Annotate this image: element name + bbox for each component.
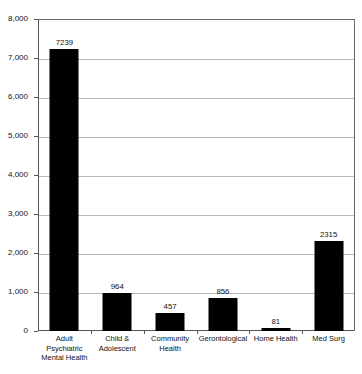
bar-group: 81 [249, 19, 302, 331]
x-tick-label: Home Health [249, 334, 302, 344]
bar[interactable] [314, 241, 343, 331]
bar[interactable] [50, 49, 79, 331]
bar[interactable] [156, 313, 185, 331]
x-tick-mark [302, 331, 303, 334]
y-tick-label: 8,000 [8, 15, 28, 23]
x-tick-label: CommunityHealth [144, 334, 197, 353]
bar-group: 2315 [302, 19, 355, 331]
bar-group: 964 [91, 19, 144, 331]
x-tick-label-line: Adolescent [91, 344, 144, 354]
x-tick-label: AdultPsychiatricMental Health [38, 334, 91, 363]
x-tick-label: Gerontological [197, 334, 250, 344]
chart-title [0, 0, 362, 4]
y-tick-mark [34, 331, 38, 332]
x-tick-label-line: Gerontological [197, 334, 250, 344]
bar-group: 856 [197, 19, 250, 331]
y-tick-label: 4,000 [8, 171, 28, 179]
bar-value-label: 7239 [56, 39, 73, 47]
y-tick-label: 0 [24, 327, 28, 335]
bar[interactable] [208, 298, 237, 331]
y-tick-label: 6,000 [8, 93, 28, 101]
x-tick-label-line: Psychiatric [38, 344, 91, 354]
x-tick-label-line: Child & [91, 334, 144, 344]
x-tick-mark [197, 331, 198, 334]
x-tick-label: Med Surg [302, 334, 355, 344]
x-tick-label-line: Mental Health [38, 353, 91, 363]
x-tick-label-line: Home Health [249, 334, 302, 344]
bars-layer: 7239964457856812315 [38, 19, 355, 331]
bar[interactable] [103, 293, 132, 331]
bar[interactable] [261, 328, 290, 331]
bar-chart-figure: 01,0002,0003,0004,0005,0006,0007,0008,00… [0, 0, 362, 374]
bar-value-label: 856 [216, 288, 229, 296]
x-axis: AdultPsychiatricMental HealthChild &Adol… [38, 334, 355, 374]
bar-group: 7239 [38, 19, 91, 331]
y-axis: 01,0002,0003,0004,0005,0006,0007,0008,00… [0, 19, 34, 331]
bar-group: 457 [144, 19, 197, 331]
x-tick-label: Child &Adolescent [91, 334, 144, 353]
y-tick-label: 2,000 [8, 249, 28, 257]
bar-value-label: 2315 [320, 231, 337, 239]
y-tick-label: 3,000 [8, 210, 28, 218]
x-tick-mark [144, 331, 145, 334]
bar-value-label: 81 [271, 318, 280, 326]
y-tick-label: 1,000 [8, 288, 28, 296]
y-tick-label: 7,000 [8, 54, 28, 62]
x-tick-label-line: Health [144, 344, 197, 354]
x-tick-mark [249, 331, 250, 334]
x-tick-label-line: Med Surg [302, 334, 355, 344]
bar-value-label: 457 [164, 303, 177, 311]
bar-value-label: 964 [111, 283, 124, 291]
y-tick-label: 5,000 [8, 132, 28, 140]
x-tick-label-line: Adult [38, 334, 91, 344]
x-tick-mark [91, 331, 92, 334]
x-tick-label-line: Community [144, 334, 197, 344]
